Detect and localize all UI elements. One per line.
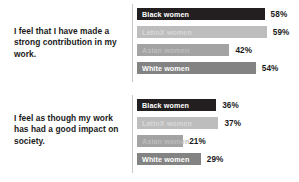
bar-value-asian-women: 42%	[235, 46, 252, 55]
bar-row: White women 54%	[137, 62, 299, 74]
bar-value-black-women: 36%	[222, 101, 239, 110]
panel-divider	[132, 95, 133, 173]
bar-latinx-women: LatinX women	[137, 26, 267, 38]
bar-label-white-women: White women	[142, 155, 189, 164]
chart-panel-contribution: I feel that I have made a strong contrib…	[0, 0, 299, 91]
bar-black-women: Black women	[137, 99, 216, 111]
bar-white-women: White women	[137, 62, 256, 74]
bar-label-asian-women: Asian women	[142, 46, 189, 55]
bar-value-white-women: 54%	[262, 64, 279, 73]
bar-value-black-women: 58%	[271, 10, 288, 19]
prompt-text-impact: I feel as though my work has had a good …	[14, 113, 126, 147]
bar-white-women: White women	[137, 153, 201, 165]
bar-row: Black women 58%	[137, 8, 299, 20]
bar-label-white-women: White women	[142, 64, 189, 73]
bar-asian-women: Asian women	[137, 135, 183, 147]
bar-row: LatinX women 59%	[137, 26, 299, 38]
panel-divider	[132, 4, 133, 82]
bar-row: Asian women 42%	[137, 44, 299, 56]
bar-row: White women 29%	[137, 153, 299, 165]
bar-label-black-women: Black women	[142, 101, 189, 110]
bar-value-white-women: 29%	[207, 155, 224, 164]
bar-chart-contribution: Black women 58% LatinX women 59% Asian w…	[137, 8, 299, 84]
bar-label-black-women: Black women	[142, 10, 189, 19]
bar-label-latinx-women: LatinX women	[142, 119, 192, 128]
bar-black-women: Black women	[137, 8, 265, 20]
chart-panel-impact: I feel as though my work has had a good …	[0, 91, 299, 182]
bar-label-asian-women: Asian women	[142, 137, 189, 146]
bar-value-latinx-women: 59%	[273, 28, 290, 37]
bar-latinx-women: LatinX women	[137, 117, 218, 129]
prompt-text-contribution: I feel that I have made a strong contrib…	[14, 26, 126, 60]
bar-row: Black women 36%	[137, 99, 299, 111]
bar-row: Asian women 21%	[137, 135, 299, 147]
bar-asian-women: Asian women	[137, 44, 229, 56]
bar-value-asian-women: 21%	[189, 137, 206, 146]
bar-value-latinx-women: 37%	[224, 119, 241, 128]
bar-chart-impact: Black women 36% LatinX women 37% Asian w…	[137, 99, 299, 175]
bar-row: LatinX women 37%	[137, 117, 299, 129]
bar-label-latinx-women: LatinX women	[142, 28, 192, 37]
